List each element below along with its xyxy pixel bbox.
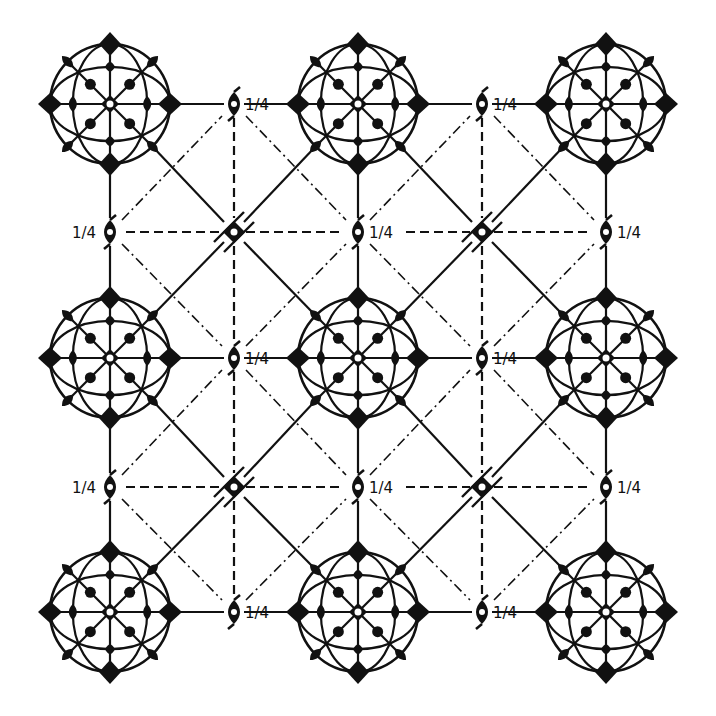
height-label: 1/4 — [369, 479, 393, 497]
fourfold-axis-icon — [534, 347, 558, 369]
fourfold-axis-icon — [347, 286, 369, 310]
screw-tail-icon — [476, 624, 482, 629]
diagonal-mirror-line — [244, 497, 315, 569]
twofold-axis-icon — [565, 350, 573, 366]
height-label: 1/4 — [72, 224, 96, 242]
threefold-axis-icon — [581, 118, 592, 129]
inversion-center-icon — [107, 355, 114, 362]
twofold-axis-icon — [105, 62, 115, 72]
twofold-axis-icon — [69, 350, 77, 366]
inversion-center-icon — [355, 609, 362, 616]
threefold-axis-icon — [333, 333, 344, 344]
fourfold-axis-icon — [595, 286, 617, 310]
threefold-axis-icon — [333, 372, 344, 383]
screw-tail-icon — [234, 595, 240, 600]
threefold-axis-icon — [581, 79, 592, 90]
cubic-point-group-stereograms — [38, 32, 678, 684]
twofold-axis-icon — [601, 390, 611, 400]
fourfold-axis-icon — [347, 152, 369, 176]
twofold-axis-icon — [143, 604, 151, 620]
screw-axis-symbol: 1/4 — [600, 215, 641, 249]
threefold-axis-icon — [620, 587, 631, 598]
threefold-axis-icon — [85, 118, 96, 129]
fourfold-axis-icon — [595, 660, 617, 684]
threefold-axis-icon — [620, 333, 631, 344]
screw-tail-icon — [234, 341, 240, 346]
diagonal-mirror-line — [401, 147, 472, 222]
inversion-center-icon — [355, 355, 362, 362]
fourfold-axis-icon — [38, 347, 62, 369]
twofold-axis-icon — [143, 350, 151, 366]
screw-axis-symbol: 1/4 — [476, 341, 517, 375]
fourfold-axis-icon — [347, 540, 369, 564]
fourfold-axis-icon — [286, 93, 310, 115]
screw-axis-symbol: 1/4 — [228, 595, 269, 629]
screw-tail-icon — [482, 341, 488, 346]
fourfold-axis-icon — [286, 601, 310, 623]
height-label: 1/4 — [245, 604, 269, 622]
fourfold-axis-icon — [99, 286, 121, 310]
twofold-axis-icon — [601, 316, 611, 326]
inversion-center-icon — [231, 229, 238, 236]
twofold-axis-icon — [69, 604, 77, 620]
diagonal-mirror-line — [492, 401, 563, 477]
inversion-center-icon — [355, 229, 361, 235]
twofold-axis-icon — [639, 96, 647, 112]
threefold-axis-icon — [333, 79, 344, 90]
threefold-axis-icon — [581, 333, 592, 344]
twofold-axis-icon — [105, 390, 115, 400]
inversion-center-icon — [355, 101, 362, 108]
height-label: 1/4 — [617, 224, 641, 242]
twofold-axis-icon — [105, 136, 115, 146]
twofold-axis-icon — [69, 96, 77, 112]
twofold-axis-icon — [105, 316, 115, 326]
twofold-axis-icon — [143, 96, 151, 112]
twofold-axis-icon — [565, 96, 573, 112]
fourfold-axis-icon — [406, 601, 430, 623]
threefold-axis-icon — [372, 626, 383, 637]
inversion-center-icon — [603, 101, 610, 108]
fourfold-axis-icon — [99, 32, 121, 56]
twofold-axis-icon — [353, 62, 363, 72]
threefold-axis-icon — [85, 372, 96, 383]
inversion-center-icon — [603, 484, 609, 490]
screw-axis-symbol: 1/4 — [476, 87, 517, 121]
twofold-axis-icon — [353, 136, 363, 146]
fourfold-axis-icon — [99, 152, 121, 176]
threefold-axis-icon — [124, 333, 135, 344]
fourfold-axis-icon — [406, 347, 430, 369]
threefold-axis-icon — [581, 626, 592, 637]
fourfold-axis-icon — [347, 406, 369, 430]
threefold-axis-icon — [372, 372, 383, 383]
fourfold-axis-icon — [38, 93, 62, 115]
inversion-center-icon — [107, 609, 114, 616]
screw-tail-icon — [234, 87, 240, 92]
height-label: 1/4 — [369, 224, 393, 242]
twofold-axis-icon — [639, 604, 647, 620]
threefold-axis-icon — [124, 372, 135, 383]
threefold-axis-icon — [124, 587, 135, 598]
height-label: 1/4 — [493, 96, 517, 114]
twofold-axis-icon — [601, 136, 611, 146]
fourfold-axis-icon — [347, 32, 369, 56]
threefold-axis-icon — [620, 79, 631, 90]
threefold-axis-icon — [620, 626, 631, 637]
diagonal-mirror-line — [401, 242, 472, 315]
fourfold-axis-icon — [595, 540, 617, 564]
inversion-center-icon — [231, 484, 238, 491]
threefold-axis-icon — [333, 587, 344, 598]
diagonal-mirror-line — [401, 401, 472, 477]
fourfold-axis-icon — [38, 601, 62, 623]
inversion-center-icon — [231, 609, 237, 615]
diagonal-mirror-line — [401, 497, 472, 569]
fourfold-axis-icon — [595, 152, 617, 176]
threefold-axis-icon — [372, 333, 383, 344]
threefold-axis-icon — [85, 79, 96, 90]
twofold-axis-icon — [601, 62, 611, 72]
height-label: 1/4 — [245, 96, 269, 114]
twofold-axis-icon — [565, 604, 573, 620]
height-label: 1/4 — [493, 604, 517, 622]
threefold-axis-icon — [620, 118, 631, 129]
height-label: 1/4 — [72, 479, 96, 497]
twofold-axis-icon — [353, 644, 363, 654]
